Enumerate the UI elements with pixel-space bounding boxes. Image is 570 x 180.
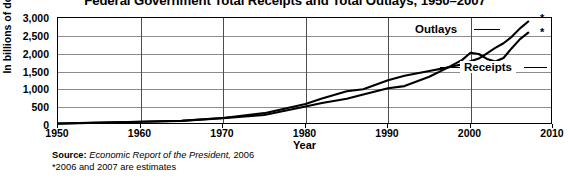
- x-tick-label: 1960: [110, 127, 170, 139]
- y-tick-label: 3,000: [3, 12, 49, 24]
- outlays-estimate-marker: *: [540, 12, 544, 24]
- x-tick-label: 1980: [275, 127, 335, 139]
- y-tick-label: 2,500: [3, 30, 49, 42]
- line-receipts: [58, 33, 528, 124]
- source-publication: Economic Report of the President,: [89, 150, 231, 160]
- y-tick-label: 1,000: [3, 83, 49, 95]
- leader-line-receipts-left: [440, 67, 461, 68]
- series-label-receipts: Receipts: [460, 61, 516, 73]
- estimates-note: *2006 and 2007 are estimates: [52, 162, 176, 172]
- chart-title: Federal Government Total Receipts and To…: [0, 0, 570, 8]
- source-label: Source:: [52, 150, 87, 160]
- x-tick-label: 1970: [192, 127, 252, 139]
- y-tick-label: 2,000: [3, 48, 49, 60]
- leader-line-outlays: [474, 29, 500, 30]
- x-tick-label: 1990: [357, 127, 417, 139]
- y-tick-label: 1,500: [3, 66, 49, 78]
- x-tick-label: 1950: [27, 127, 87, 139]
- x-tick-label: 2000: [440, 127, 500, 139]
- x-tick-label: 2010: [522, 127, 570, 139]
- receipts-estimate-marker: *: [540, 26, 544, 38]
- y-tick-label: 500: [3, 101, 49, 113]
- leader-line-receipts-right: [524, 67, 547, 68]
- series-label-outlays: Outlays: [411, 23, 461, 35]
- source-year: 2006: [233, 150, 254, 160]
- source-note: Source: Economic Report of the President…: [52, 150, 254, 160]
